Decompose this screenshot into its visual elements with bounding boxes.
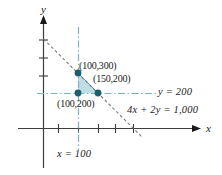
vertex-label-150-200: (150,200) [93, 74, 130, 84]
label-line-budget: 4x + 2y = 1,000 [127, 105, 198, 116]
x-axis-label: x [206, 123, 211, 134]
label-line-x100: x = 100 [57, 149, 91, 160]
vertex-label-100-200: (100,200) [57, 99, 94, 109]
vertex-label-100-300: (100,300) [79, 61, 116, 71]
label-line-y200: y = 200 [158, 87, 192, 98]
vertex-100-200 [75, 90, 82, 97]
y-axis-label: y [41, 4, 46, 15]
graph-figure: y x (100,300) (150,200) (100,200) y = 20… [0, 0, 222, 175]
y-axis [39, 15, 48, 168]
vertex-150-200 [95, 90, 102, 97]
x-axis [18, 124, 201, 133]
